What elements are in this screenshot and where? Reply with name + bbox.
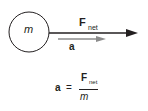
force-arrow-head	[126, 29, 138, 37]
newton-second-law-diagram	[0, 0, 148, 111]
force-subscript: net	[88, 24, 98, 31]
force-label: F	[79, 17, 86, 28]
accel-arrow-head	[96, 36, 106, 42]
equation-equals: =	[66, 83, 72, 93]
acceleration-label: a	[69, 42, 75, 52]
equation-numerator-subscript: net	[89, 79, 97, 85]
equation-denominator: m	[80, 92, 88, 102]
equation-numerator: F	[81, 73, 87, 83]
equation-lhs: a	[55, 83, 61, 93]
fraction-bar	[79, 89, 98, 90]
mass-label: m	[24, 24, 33, 35]
